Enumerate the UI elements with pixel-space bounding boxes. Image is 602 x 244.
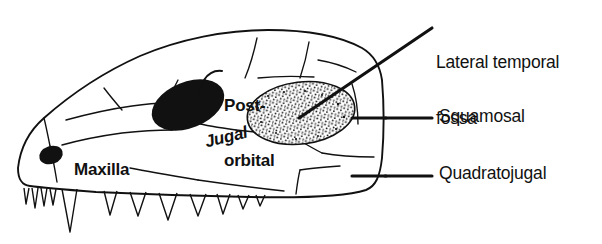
label-lateral-temporal-fossa-line1: Lateral temporal — [436, 53, 559, 72]
label-postorbital-line2: orbital — [224, 152, 275, 170]
label-maxilla: Maxilla — [74, 161, 129, 179]
naris-marking — [37, 143, 65, 168]
label-quadratojugal: Quadratojugal — [439, 164, 546, 183]
label-squamosal: Squamosal — [439, 107, 525, 126]
label-postorbital-line1: Post- — [224, 97, 275, 115]
fossa-leader-line — [299, 28, 432, 118]
label-lateral-temporal-fossa: Lateral temporal fossa — [436, 15, 559, 147]
tooth-row — [24, 188, 265, 232]
postorbital-leader-tick — [204, 71, 222, 80]
label-postorbital: Post- orbital — [224, 60, 275, 189]
